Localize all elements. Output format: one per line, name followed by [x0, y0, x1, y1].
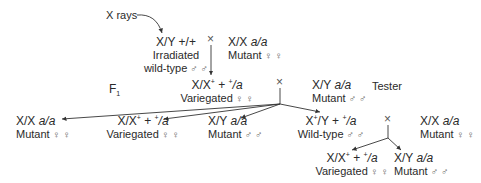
- female-symbol-icon: ♀ ♀: [457, 129, 475, 140]
- female-symbol-icon: ♀ ♀: [162, 129, 180, 140]
- tester-mutant-male: X/Y a/a Mutant ♂ ♂: [312, 78, 368, 105]
- male-symbol-icon: ♂ ♂: [349, 93, 367, 104]
- male-symbol-icon: ♂ ♂: [190, 63, 208, 74]
- tester-label: Tester: [372, 80, 402, 93]
- cross-symbol-icon: ×: [276, 76, 283, 88]
- phenotype: Mutant: [312, 92, 346, 104]
- phenotype-line2: wild-type: [144, 62, 187, 74]
- second-offspring-variegated-female: X/X+ + +/a Variegated ♀ ♀: [312, 151, 392, 178]
- second-cross-mutant-female: X/X a/a Mutant ♀ ♀: [420, 114, 476, 141]
- cross-symbol-icon: ×: [384, 113, 391, 125]
- second-offspring-mutant-male: X/Y a/a Mutant ♂ ♂: [394, 151, 454, 178]
- offspring-wildtype-male: X+/Y + +/a Wild-type ♂ ♂: [296, 114, 366, 141]
- male-symbol-icon: ♂ ♂: [431, 166, 449, 177]
- generation-label: F1: [109, 83, 120, 100]
- parent-mutant-female: X/X a/a Mutant ♀ ♀: [228, 35, 298, 62]
- genotype: X/X: [228, 35, 251, 49]
- female-symbol-icon: ♀ ♀: [53, 129, 71, 140]
- male-symbol-icon: ♂ ♂: [245, 129, 263, 140]
- parent-irradiated-male: X/Y +/+ Irradiated wild-type ♂ ♂: [136, 35, 216, 75]
- genotype: X/Y +/+: [136, 35, 216, 49]
- offspring-mutant-male: X/Y a/a Mutant ♂ ♂: [208, 114, 268, 141]
- phenotype: Variegated: [180, 92, 232, 104]
- phenotype-line1: Irradiated: [136, 49, 216, 62]
- x-rays-label: X rays: [106, 9, 137, 22]
- offspring-variegated-female: X/X+ + +/a Variegated ♀ ♀: [103, 114, 183, 141]
- genotype-italic: a/a: [251, 35, 268, 49]
- offspring-mutant-female: X/X a/a Mutant ♀ ♀: [16, 114, 64, 141]
- genotype: X/X+ + +/a: [178, 78, 256, 92]
- female-symbol-icon: ♀ ♀: [265, 50, 283, 61]
- female-symbol-icon: ♀ ♀: [371, 166, 389, 177]
- f1-variegated-female: X/X+ + +/a Variegated ♀ ♀: [178, 78, 256, 105]
- male-symbol-icon: ♂ ♂: [347, 129, 365, 140]
- female-symbol-icon: ♀ ♀: [236, 93, 254, 104]
- genotype: X/Y: [312, 78, 334, 92]
- cross-symbol-icon: ×: [207, 33, 214, 45]
- phenotype: Mutant: [228, 49, 262, 61]
